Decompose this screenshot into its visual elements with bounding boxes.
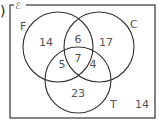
partial-bracket: )	[0, 3, 5, 19]
set-label-C: C	[130, 18, 138, 31]
set-label-F: F	[20, 20, 26, 33]
region-C-only: 17	[99, 36, 113, 49]
region-F-only: 14	[39, 36, 53, 49]
universal-set-symbol: ℰ	[15, 1, 21, 11]
region-F-and-C: 6	[75, 33, 82, 46]
region-all-three: 7	[75, 52, 82, 65]
set-label-T: T	[109, 98, 117, 111]
region-outside: 14	[135, 98, 149, 111]
region-F-and-T: 5	[59, 58, 66, 71]
region-C-and-T: 4	[90, 58, 97, 71]
region-T-only: 23	[71, 87, 85, 100]
venn-diagram: ) ℰ F C T 14 6 17 5 7 4 23 14	[0, 0, 159, 129]
